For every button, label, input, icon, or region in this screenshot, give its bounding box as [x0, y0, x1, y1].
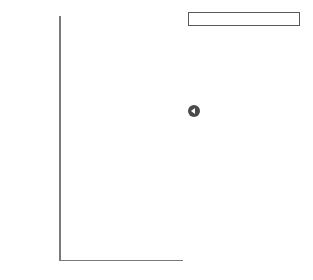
- chart-area: [0, 0, 190, 280]
- legend: [188, 12, 300, 26]
- figure-container: [0, 0, 313, 280]
- left-arrow-circle-icon: [188, 105, 200, 117]
- stacked-bar: [60, 18, 182, 260]
- figure-caption: [188, 103, 310, 117]
